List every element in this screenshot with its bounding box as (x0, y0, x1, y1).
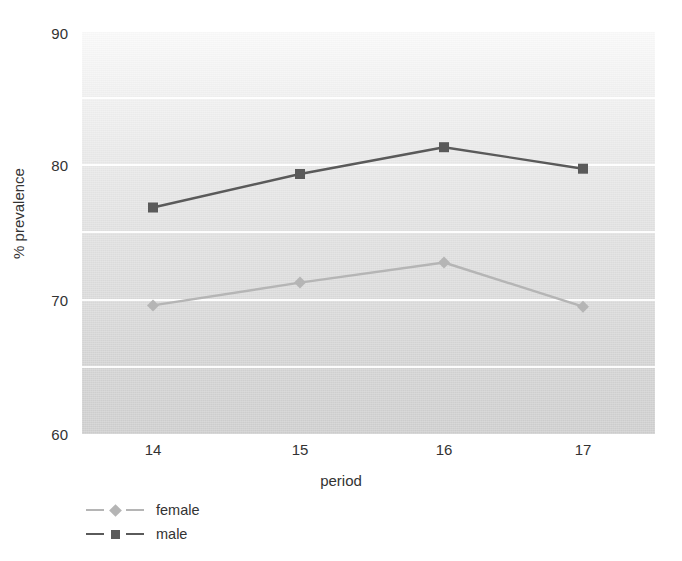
square-marker-icon (111, 530, 120, 539)
diamond-marker-icon (109, 504, 122, 517)
plot-area (82, 32, 655, 434)
gridline-85 (82, 97, 655, 99)
legend-item-female[interactable]: female (86, 498, 200, 522)
legend-key-male (86, 525, 144, 543)
x-tick-label-14: 14 (123, 442, 183, 457)
y-tick-label-60: 60 (0, 427, 68, 442)
legend-item-male[interactable]: male (86, 522, 200, 546)
y-tick-label-90: 90 (0, 26, 68, 41)
legend-label-female: female (156, 503, 200, 518)
gridline-70 (82, 299, 655, 301)
x-tick-label-17: 17 (553, 442, 613, 457)
chart-container: 90 80 70 60 % prevalence 14 15 16 17 per… (0, 0, 682, 561)
x-tick-label-16: 16 (414, 442, 474, 457)
gridline-65 (82, 366, 655, 368)
x-axis-title: period (0, 472, 682, 489)
legend-line-right-male (126, 533, 144, 535)
legend-line-left-male (86, 533, 104, 535)
legend-line-right-female (126, 509, 144, 511)
y-tick-label-70: 70 (0, 293, 68, 308)
y-axis-title: % prevalence (10, 134, 27, 294)
legend-label-male: male (156, 527, 187, 542)
legend-line-left-female (86, 509, 104, 511)
gridline-75 (82, 231, 655, 233)
legend-key-female (86, 501, 144, 519)
chart-legend: female male (86, 498, 200, 546)
gridline-80 (82, 164, 655, 166)
plot-texture-overlay (82, 32, 655, 434)
x-tick-label-15: 15 (270, 442, 330, 457)
